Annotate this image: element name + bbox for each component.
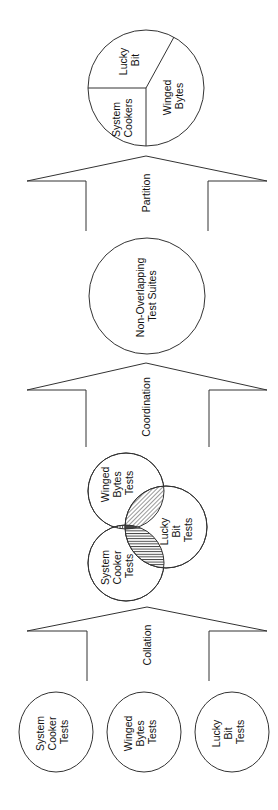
coordination-arrow: Coordination	[27, 363, 267, 447]
non-overlapping-suites: Non-Overlapping Test Suites	[89, 238, 205, 354]
source-suites: System Cooker Tests Winged Bytes Tests L…	[19, 692, 269, 772]
collation-arrow: Collation	[27, 607, 267, 681]
test-suite-partition-diagram: Lucky Bit System Cookers Winged Bytes Pa…	[0, 0, 278, 810]
partition-arrow: Partition	[27, 156, 267, 231]
pie-slice-system-cookers-label: System Cookers	[110, 98, 134, 137]
overlapping-venn: Winged Bytes Tests System Cooker Tests L…	[88, 453, 207, 601]
collation-arrow-label: Collation	[141, 624, 153, 665]
partition-arrow-label: Partition	[140, 174, 152, 213]
partitioned-pie: Lucky Bit System Cookers Winged Bytes	[88, 30, 204, 146]
coordination-arrow-label: Coordination	[140, 377, 152, 437]
